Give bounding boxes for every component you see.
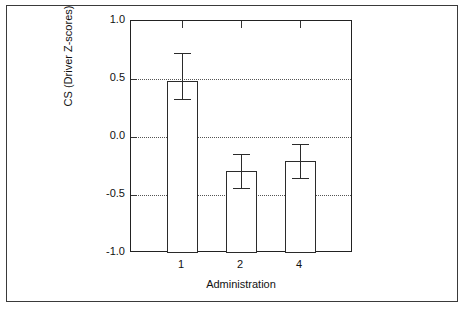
x-axis-title: Administration [130, 278, 352, 290]
y-tick-mark--0.5 [131, 195, 137, 196]
y-tick-label-2: 0.5 [110, 72, 125, 83]
errorbar-cap-top-3 [292, 144, 309, 145]
errorbar-line-1 [182, 53, 183, 99]
gridline-0.0 [131, 137, 351, 138]
y-tick-label-3: 0.0 [110, 130, 125, 141]
x-tick-top-4 [300, 21, 301, 28]
errorbar-cap-bottom-3 [292, 178, 309, 179]
x-tick-label-4: 4 [284, 258, 314, 270]
x-tick-label-2: 2 [225, 258, 255, 270]
errorbar-line-3 [300, 144, 301, 178]
bar-administration-1[interactable] [167, 81, 198, 253]
errorbar-cap-bottom-2 [233, 188, 250, 189]
x-tick-label-1: 1 [166, 258, 196, 270]
y-tick-mark-0.5 [131, 79, 137, 80]
figure-canvas: 1.0 0.5 0.0 -0.5 -1.0 CS (Driver Z-score… [0, 0, 463, 309]
y-tick-label-5: -1.0 [106, 246, 125, 257]
y-axis-tick-labels: 1.0 0.5 0.0 -0.5 -1.0 [90, 20, 125, 252]
plot-area [130, 20, 352, 252]
y-tick-label-4: -0.5 [106, 188, 125, 199]
y-tick-mark-0.0 [131, 137, 137, 138]
errorbar-cap-top-2 [233, 154, 250, 155]
y-axis-title: CS (Driver Z-scores) [62, 0, 74, 146]
x-tick-top-2 [241, 21, 242, 28]
errorbar-cap-top-1 [174, 53, 191, 54]
errorbar-line-2 [241, 154, 242, 188]
gridline-0.5 [131, 79, 351, 80]
x-tick-top-1 [182, 21, 183, 28]
errorbar-cap-bottom-1 [174, 99, 191, 100]
y-tick-label-1: 1.0 [110, 14, 125, 25]
